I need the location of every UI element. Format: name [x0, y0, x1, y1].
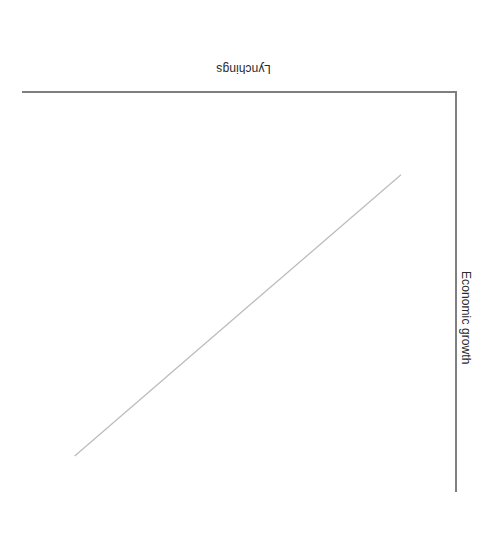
trend-line-path — [75, 175, 401, 456]
plot-area — [30, 91, 457, 492]
x-axis-label: Lynchings — [0, 62, 487, 76]
chart-screenshot: Lynchings Economic growth — [0, 0, 487, 541]
trend-line-series — [30, 91, 457, 492]
y-axis-label: Economic growth — [459, 271, 473, 365]
chart-figure: Lynchings Economic growth — [0, 0, 487, 541]
